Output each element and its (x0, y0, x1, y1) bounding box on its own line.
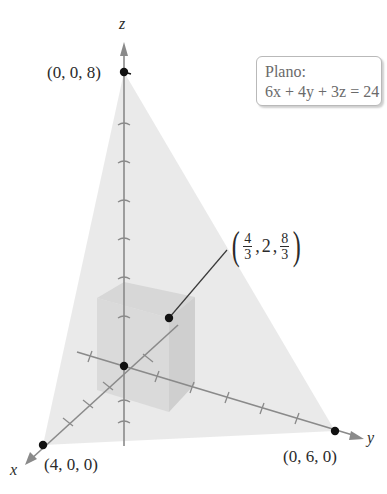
z-fraction: 8 3 (280, 231, 289, 262)
z-axis-label: z (119, 16, 125, 32)
point-y-intercept (331, 427, 339, 435)
x-arrow-icon (25, 452, 37, 465)
z-intercept-label: (0, 0, 8) (47, 64, 101, 81)
plane-equation: 6x + 4y + 3z = 24 (265, 82, 381, 102)
x-axis-label: x (10, 462, 17, 478)
plane-label-box: Plano: 6x + 4y + 3z = 24 (256, 56, 382, 106)
y-value: 2 (262, 236, 271, 257)
plane-label-title: Plano: (265, 62, 381, 82)
z-arrow-icon (120, 42, 128, 56)
x-fraction: 4 3 (243, 231, 252, 262)
y-arrow-icon (349, 431, 364, 440)
open-paren: ( (232, 226, 240, 266)
point-origin (120, 362, 128, 370)
x-intercept-label: (4, 0, 0) (44, 456, 98, 473)
box-corner-label: ( 4 3 , 2 , 8 3 ) (229, 226, 304, 266)
y-intercept-label: (0, 6, 0) (283, 448, 337, 465)
y-axis-label: y (367, 430, 374, 446)
close-paren: ) (293, 226, 301, 266)
point-x-intercept (39, 441, 47, 449)
rectangular-box (97, 282, 195, 412)
point-box-corner (165, 314, 173, 322)
